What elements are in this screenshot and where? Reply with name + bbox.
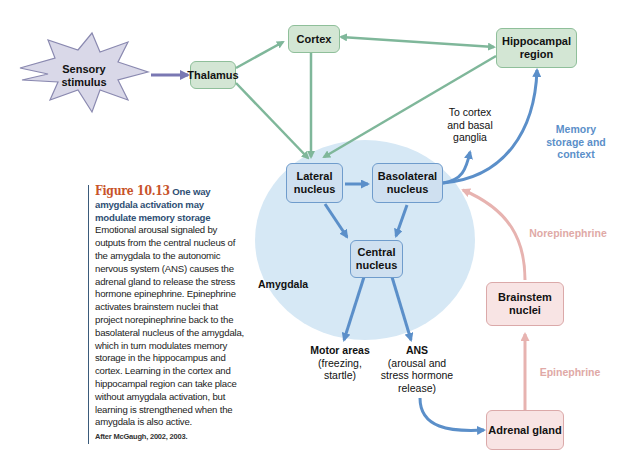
motor-subtitle: (freezing, startle) xyxy=(314,357,366,382)
ans-subtitle: (arousal and stress hormone release) xyxy=(375,357,459,395)
node-thalamus: Thalamus xyxy=(190,61,236,89)
label-ans: ANS (arousal and stress hormone release) xyxy=(375,344,459,394)
node-basolateral-nucleus: Basolateral nucleus xyxy=(372,163,443,203)
figure-caption-text: Emotional arousal signaled by outputs fr… xyxy=(95,224,244,427)
node-cortex: Cortex xyxy=(288,25,340,53)
label-norepinephrine: Norepinephrine xyxy=(520,227,616,240)
motor-title: Motor areas xyxy=(300,344,380,357)
label-memory-storage: Memory storage and context xyxy=(540,123,612,161)
ans-title: ANS xyxy=(375,344,459,357)
figure-caption: Figure 10.13 One way amygdala activation… xyxy=(88,185,245,444)
node-central-nucleus: Central nucleus xyxy=(350,240,403,278)
node-sensory-stimulus: Sensory stimulus xyxy=(42,63,126,89)
label-to-cortex-basal-ganglia: To cortex and basal ganglia xyxy=(440,106,500,144)
node-adrenal-gland: Adrenal gland xyxy=(486,410,564,450)
label-amygdala: Amygdala xyxy=(258,278,308,291)
figure-number: Figure 10.13 xyxy=(95,184,170,198)
label-motor-areas: Motor areas (freezing, startle) xyxy=(300,344,380,382)
node-brainstem-nuclei: Brainstem nuclei xyxy=(486,282,564,326)
label-epinephrine: Epinephrine xyxy=(530,366,610,379)
node-lateral-nucleus: Lateral nucleus xyxy=(286,163,343,203)
node-hippocampal-region: Hippocampal region xyxy=(496,28,577,68)
figure-credit: After McGaugh, 2002, 2003. xyxy=(95,431,245,444)
